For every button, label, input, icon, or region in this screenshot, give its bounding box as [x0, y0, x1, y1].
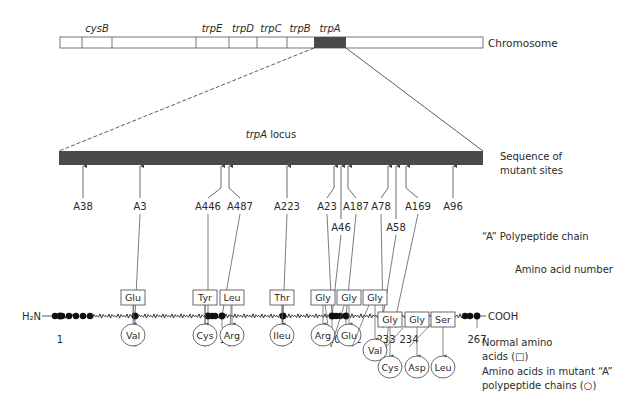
locus-gene-name: trpA	[246, 129, 267, 140]
residue-dot-1	[57, 313, 64, 320]
site-label: A46	[331, 222, 351, 233]
legend-normal-line2: acids (□)	[482, 351, 528, 362]
mutant-amino-acid: Ileu	[273, 330, 290, 341]
trpA-segment	[314, 37, 346, 48]
chromosome-label: Chromosome	[488, 37, 558, 49]
site-arrow	[381, 166, 388, 198]
normal-amino-acid: Glu	[125, 292, 141, 303]
mutant-amino-acid: Leu	[435, 362, 452, 373]
normal-amino-acid: Gly	[341, 292, 357, 303]
residue-dot-176	[219, 313, 226, 320]
site-arrow	[208, 166, 221, 198]
normal-amino-acid: Gly	[367, 292, 383, 303]
locus-title: trpA locus	[246, 129, 296, 140]
zoom-line-right	[346, 48, 483, 151]
normal-amino-acid: Tyr	[197, 292, 212, 303]
locus-bar	[59, 151, 483, 165]
residue-dot-182	[280, 313, 287, 320]
gene-label-trpC: trpC	[260, 23, 281, 34]
mutant-site-A38: A38	[73, 166, 93, 212]
site-label: A38	[73, 201, 93, 212]
substitution-48-Glu-to-Val: GluVal	[121, 290, 145, 347]
site-label: A223	[274, 201, 300, 212]
legend-mutant-line1: Amino acids in mutant “A”	[482, 366, 613, 377]
normal-amino-acid: Leu	[224, 292, 241, 303]
normal-amino-acid: Gly	[382, 314, 398, 325]
legend-mutant-line2: polypeptide chains (○)	[482, 380, 596, 391]
site-arrow	[327, 166, 334, 198]
gene-label-trpA: trpA	[319, 23, 340, 34]
locus-suffix: locus	[267, 129, 296, 140]
site-label: A23	[317, 201, 337, 212]
mutant-amino-acid: Cys	[381, 362, 398, 373]
gene-label-trpE: trpE	[202, 23, 223, 34]
site-label: A58	[386, 222, 406, 233]
diagram-canvas: cysBtrpEtrpDtrpCtrpBtrpA Chromosome trpA…	[0, 0, 638, 403]
residue-dot-210	[329, 313, 336, 320]
mutant-amino-acid: Arg	[224, 330, 240, 341]
residue-dot-48	[132, 313, 139, 320]
mutant-sites-label-line1: Sequence of	[500, 151, 563, 162]
residue-dot-174	[205, 313, 212, 320]
site-label: A187	[343, 201, 369, 212]
residue-dot	[467, 313, 473, 319]
gene-label-trpB: trpB	[289, 23, 310, 34]
site-arrow	[348, 166, 356, 198]
amino-acid-number-234: 234	[399, 334, 418, 345]
residue-dot	[73, 313, 79, 319]
mutant-amino-acid: Val	[368, 345, 382, 356]
chromosome-bar	[60, 37, 483, 48]
residue-dot-267	[474, 313, 481, 320]
site-label: A78	[371, 201, 391, 212]
legend-normal-line1: Normal amino	[482, 337, 552, 348]
c-terminus-label: COOH	[488, 311, 518, 322]
mutant-site-A169: A169	[396, 166, 431, 316]
gene-label-trpD: trpD	[232, 23, 254, 34]
amino-acid-number-1: 1	[57, 334, 63, 345]
site-label: A487	[227, 201, 253, 212]
normal-amino-acid: Gly	[315, 292, 331, 303]
site-arrow	[406, 166, 418, 198]
site-label: A3	[133, 201, 146, 212]
site-label: A96	[443, 201, 463, 212]
trpA-locus-bar	[59, 151, 483, 165]
gene-label-cysB: cysB	[85, 23, 109, 34]
mutant-amino-acid: Glu	[341, 330, 357, 341]
site-label: A169	[405, 201, 431, 212]
site-arrow	[229, 166, 240, 198]
residue-dot-212	[343, 313, 350, 320]
normal-amino-acid: Thr	[273, 292, 290, 303]
mutant-amino-acid: Val	[126, 330, 140, 341]
normal-amino-acid: Ser	[435, 314, 451, 325]
residue-dot	[87, 313, 93, 319]
chromosome: cysBtrpEtrpDtrpCtrpBtrpA	[60, 23, 483, 48]
residue-dot	[80, 313, 86, 319]
mutant-amino-acid: Cys	[196, 330, 213, 341]
mutant-sites-label-line2: mutant sites	[500, 165, 563, 176]
chain-title: “A” Polypeptide chain	[482, 231, 589, 242]
residue-dot	[212, 313, 218, 319]
residue-dot	[66, 313, 72, 319]
n-terminus-label: H₂N	[22, 311, 41, 322]
mutant-amino-acid: Asp	[408, 362, 425, 373]
site-label: A446	[195, 201, 221, 212]
normal-amino-acid: Gly	[409, 314, 425, 325]
trpA-mutation-diagram: cysBtrpEtrpDtrpCtrpBtrpA Chromosome trpA…	[0, 0, 638, 403]
amino-acid-number-label: Amino acid number	[515, 264, 614, 275]
mutant-site-A96: A96	[443, 166, 463, 212]
mutant-amino-acid: Arg	[315, 330, 331, 341]
